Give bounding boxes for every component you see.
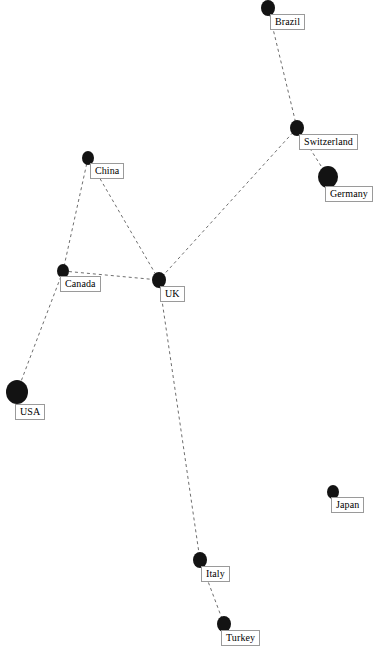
graph-node-usa[interactable] (6, 380, 28, 404)
graph-node-label-germany: Germany (325, 186, 373, 202)
network-graph-canvas: BrazilSwitzerlandGermanyChinaCanadaUKUSA… (0, 0, 382, 651)
graph-node-label-japan: Japan (331, 497, 364, 513)
graph-node-label-switzerland: Switzerland (299, 134, 358, 150)
graph-node-label-italy: Italy (201, 566, 230, 582)
graph-node-label-usa: USA (15, 404, 45, 420)
graph-node-label-china: China (90, 163, 124, 179)
node-layer: BrazilSwitzerlandGermanyChinaCanadaUKUSA… (0, 0, 382, 651)
graph-node-label-brazil: Brazil (270, 14, 305, 30)
graph-node-label-canada: Canada (60, 276, 101, 292)
graph-node-germany[interactable] (318, 166, 338, 188)
graph-node-label-uk: UK (160, 286, 185, 302)
graph-node-label-turkey: Turkey (221, 630, 260, 646)
